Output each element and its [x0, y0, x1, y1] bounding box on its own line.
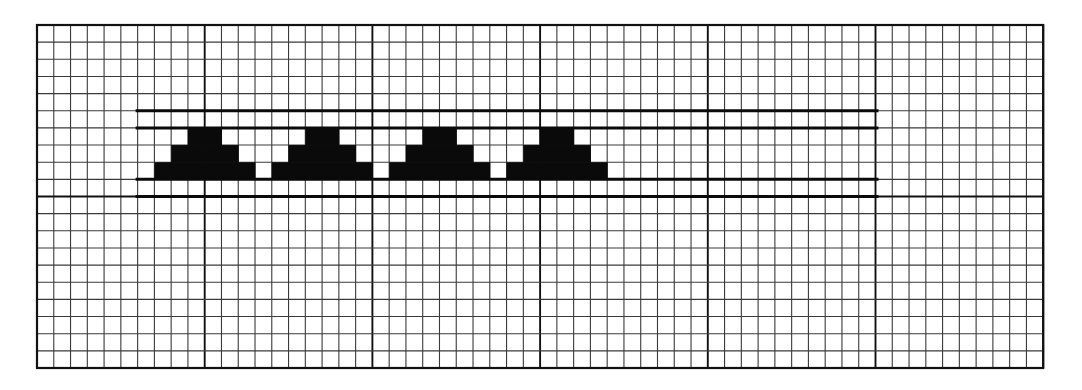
grid-pattern-diagram [0, 0, 1082, 390]
motif-step-block [540, 128, 574, 146]
triangle-motif-2 [272, 128, 373, 180]
motif-step-block [305, 128, 339, 146]
motif-step-block [171, 145, 239, 163]
motif-step-block [272, 162, 373, 180]
motif-step-block [289, 145, 357, 163]
triangle-motif-1 [154, 128, 255, 180]
motif-step-block [523, 145, 591, 163]
motif-step-block [507, 162, 608, 180]
motif-step-block [389, 162, 490, 180]
motif-step-block [423, 128, 457, 146]
motif-step-block [154, 162, 255, 180]
motif-step-block [188, 128, 222, 146]
triangle-motif-4 [507, 128, 608, 180]
triangle-motif-3 [389, 128, 490, 180]
motif-step-block [406, 145, 474, 163]
